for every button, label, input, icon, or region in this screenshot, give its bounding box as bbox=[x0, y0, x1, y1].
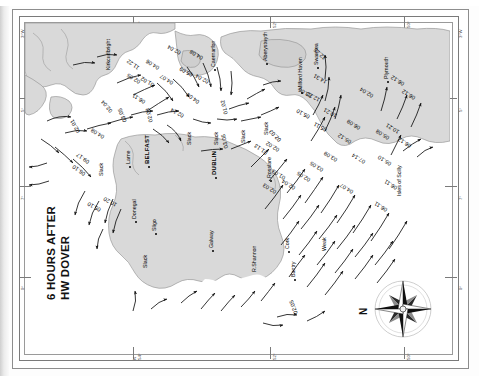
place-label: Cork bbox=[284, 238, 290, 249]
longitude-label-right: 9° bbox=[458, 286, 463, 290]
place-label: Bantry bbox=[290, 262, 296, 277]
place-label: Caernarfon bbox=[210, 41, 216, 68]
page-title-line1: 6 HOURS AFTER bbox=[45, 206, 57, 300]
slack-water-label: Slack bbox=[98, 163, 104, 176]
latitude-label-bottom: 52° bbox=[272, 353, 277, 360]
place-label: BELFAST bbox=[144, 135, 150, 164]
page-title: 6 HOURS AFTER HW DOVER bbox=[44, 206, 72, 300]
scan-top-margin bbox=[0, 0, 479, 6]
compass-north-label: N bbox=[358, 308, 369, 315]
longitude-label-right: 7° bbox=[458, 196, 463, 200]
latitude-label-bottom: 50° bbox=[406, 353, 411, 360]
scan-edge-shadow bbox=[0, 0, 9, 376]
place-label: Plymouth bbox=[383, 57, 389, 79]
latitude-label-bottom: 54° bbox=[137, 353, 142, 360]
place-label: DUBLIN bbox=[211, 151, 217, 175]
place-label: Kirkcudbright bbox=[105, 39, 111, 70]
place-label: Galway bbox=[208, 230, 214, 248]
slack-water-label: Slack bbox=[186, 132, 192, 145]
slack-water-label: Slack bbox=[213, 132, 219, 145]
place-label: Donegal bbox=[131, 199, 137, 219]
longitude-label-right: 5° bbox=[458, 108, 463, 112]
slack-water-label: Slack bbox=[142, 255, 148, 268]
compass-rose-icon bbox=[372, 278, 434, 340]
place-label: Larne bbox=[125, 150, 131, 164]
place-label: Rosslare bbox=[266, 157, 272, 178]
place-label: Milford Haven bbox=[297, 57, 303, 90]
place-label: Aberystwyth bbox=[262, 32, 268, 61]
place-label: Sligo bbox=[151, 219, 157, 231]
place-label: Isles of Scilly bbox=[396, 165, 402, 196]
place-label: R.Shannon bbox=[251, 245, 257, 272]
tidal-stream-atlas-page: 3°W5°7°9°3°W5°7°9°N54°52°50°N54°52°50° bbox=[0, 0, 479, 376]
slack-water-label: Weak bbox=[321, 237, 327, 251]
slack-water-label: Slack bbox=[240, 130, 246, 143]
longitude-label-right: 3°W bbox=[458, 29, 463, 38]
page-title-line2: HW DOVER bbox=[59, 236, 71, 300]
